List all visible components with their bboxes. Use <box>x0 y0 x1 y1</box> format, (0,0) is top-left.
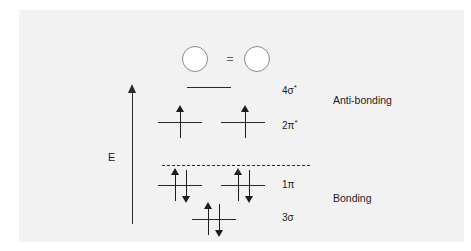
molecular-orbital-diagram: = E 4σ*2π*1π3σ Anti-bonding Bonding <box>0 0 471 251</box>
energy-level-line <box>221 185 265 186</box>
electron-arrow-up <box>176 105 185 138</box>
orbital-label-4sigma-star: 4σ* <box>282 82 297 97</box>
electron-arrow-down <box>245 170 254 203</box>
arrowhead-icon <box>245 196 253 203</box>
energy-levels-layer: 4σ*2π*1π3σ <box>19 10 464 242</box>
arrow-shaft <box>245 111 246 138</box>
arrow-shaft <box>219 204 220 231</box>
electron-arrow-up <box>241 105 250 138</box>
orbital-label-1pi: 1π <box>282 179 294 191</box>
region-label-anti-bonding: Anti-bonding <box>333 94 392 107</box>
electron-arrow-up <box>204 202 213 235</box>
arrowhead-icon <box>215 230 223 237</box>
arrow-shaft <box>208 208 209 235</box>
arrow-shaft <box>186 170 187 197</box>
diagram-panel: = E 4σ*2π*1π3σ Anti-bonding Bonding <box>19 10 464 242</box>
electron-arrow-up <box>171 168 180 201</box>
arrow-shaft <box>175 174 176 201</box>
arrow-shaft <box>180 111 181 138</box>
energy-level-line <box>158 185 202 186</box>
arrow-shaft <box>249 170 250 197</box>
energy-level-line <box>192 219 236 220</box>
region-label-bonding: Bonding <box>333 192 372 205</box>
orbital-label-2pi-star: 2π* <box>282 117 298 132</box>
electron-arrow-up <box>234 168 243 201</box>
orbital-label-3sigma: 3σ <box>282 212 294 224</box>
electron-arrow-down <box>215 204 224 237</box>
energy-level-line <box>187 87 231 88</box>
electron-arrow-down <box>182 170 191 203</box>
arrowhead-icon <box>182 196 190 203</box>
arrow-shaft <box>238 174 239 201</box>
